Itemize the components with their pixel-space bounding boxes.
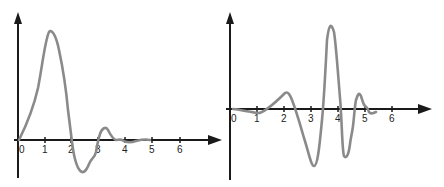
- waveform-curve: [19, 31, 150, 172]
- tick-label: 1: [42, 144, 48, 155]
- tick-label: 2: [281, 113, 287, 124]
- x-tick-labels: 0 1 2 3 4 5 6: [231, 113, 395, 124]
- tick-label: 5: [149, 144, 155, 155]
- y-axis-arrow-icon: [226, 12, 234, 24]
- chart-right: 0 1 2 3 4 5 6: [226, 12, 432, 180]
- tick-label: 6: [389, 113, 395, 124]
- tick-label: 3: [308, 113, 314, 124]
- tick-label: 5: [362, 113, 368, 124]
- x-tick-labels: 0 1 2 3 4 5 6: [19, 144, 183, 155]
- x-axis-arrow-icon: [418, 104, 432, 114]
- chart-left: 0 1 2 3 4 5 6: [14, 12, 222, 178]
- tick-label: 1: [254, 113, 260, 124]
- tick-label: 0: [19, 144, 25, 155]
- figure: 0 1 2 3 4 5 6 0 1 2 3 4 5: [0, 0, 444, 187]
- tick-label: 0: [231, 113, 237, 124]
- y-axis-arrow-icon: [14, 12, 22, 24]
- tick-label: 6: [177, 144, 183, 155]
- waveform-curve: [233, 26, 376, 166]
- tick-label: 4: [122, 144, 128, 155]
- x-axis-arrow-icon: [208, 135, 222, 145]
